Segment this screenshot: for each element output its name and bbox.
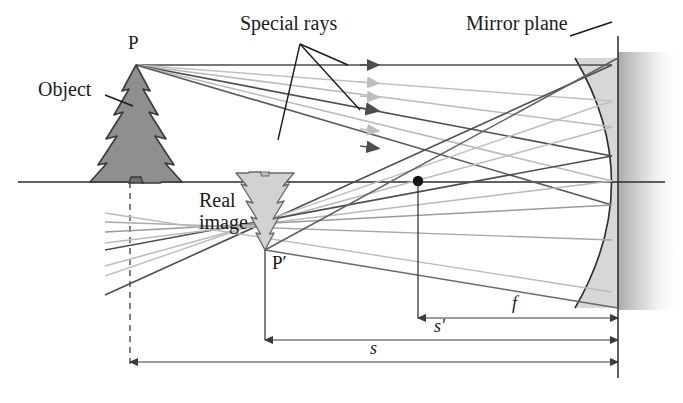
figure-canvas: P Object Special rays Mirror plane Real …	[0, 0, 683, 403]
dimension-label-s: s	[370, 339, 377, 357]
special-rays-label: Special rays	[240, 13, 337, 33]
mirror-shadow	[618, 52, 680, 310]
reflected-ray-5	[105, 181, 612, 243]
reflected-ray-2	[105, 101, 612, 276]
dimension-label-s-prime: s′	[434, 317, 445, 335]
incident-rays	[136, 65, 612, 205]
incident-ray-to-vertex	[136, 65, 612, 205]
point-label-P: P	[128, 33, 139, 52]
converging-bundle	[265, 58, 618, 308]
dimension-label-f: f	[512, 294, 517, 312]
reflected-ray-8	[105, 213, 612, 292]
point-label-P-prime: P′	[272, 253, 287, 272]
mirror-plane-leader-line	[570, 22, 612, 36]
object-tree	[90, 65, 182, 183]
ray-diagram-svg	[0, 0, 683, 403]
real-image-label-line1: Real	[199, 190, 236, 210]
mirror-plane-label: Mirror plane	[466, 13, 568, 33]
reflected-ray-3	[105, 127, 612, 266]
real-image-label-line2: image	[199, 212, 248, 232]
reflected-ray-parallel	[105, 156, 612, 250]
reflected-ray-6	[105, 205, 612, 232]
object-label: Object	[38, 79, 91, 99]
